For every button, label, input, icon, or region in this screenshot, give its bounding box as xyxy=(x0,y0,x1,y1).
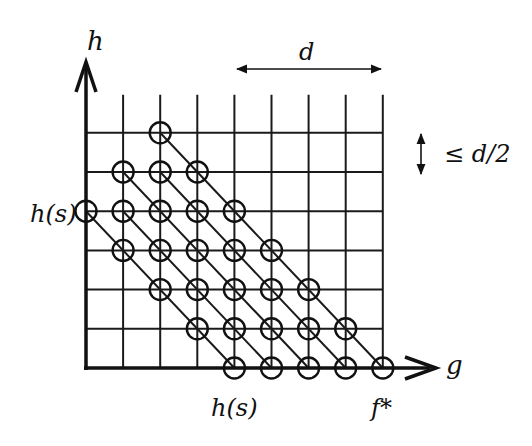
bottom-end-label: f* xyxy=(369,394,392,422)
bottom-tick-label: h(s) xyxy=(211,394,258,422)
diagonal-contour-line xyxy=(123,172,309,368)
search-lattice-diagram: h g h(s) h(s) f* d ≤ d/2 xyxy=(0,0,532,446)
y-axis-label: h xyxy=(87,26,104,56)
diagonal-contour-line xyxy=(160,172,346,368)
height-annotation-label: ≤ d/2 xyxy=(444,140,510,168)
grid-lines xyxy=(86,95,383,368)
left-tick-label: h(s) xyxy=(30,200,77,228)
x-axis-label: g xyxy=(446,350,463,380)
width-annotation-label: d xyxy=(299,38,314,66)
